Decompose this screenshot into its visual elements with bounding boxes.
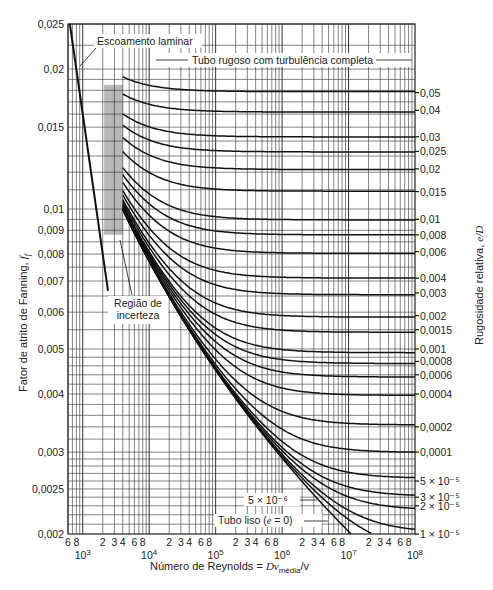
y-tick-label: 0,025	[38, 18, 64, 30]
x-decade-label: 108	[407, 548, 424, 561]
roughness-label: 0,01	[420, 213, 441, 225]
x-minor-tick-label: 2	[100, 536, 106, 548]
roughness-label: 0,0008	[420, 355, 452, 367]
roughness-label: 0,006	[420, 246, 446, 258]
x-minor-tick-label: 8	[140, 536, 146, 548]
x-minor-tick-label: 8	[73, 536, 79, 548]
x-minor-tick-label: 4	[253, 536, 259, 548]
roughness-labels: 0,050,040,030,0250,020,0150,010,0080,006…	[415, 87, 460, 540]
x-minor-tick-label: 3	[311, 536, 317, 548]
y-tick-label: 0,004	[38, 388, 64, 400]
roughness-label: 0,0004	[420, 388, 452, 400]
y-tick-label: 0,005	[38, 343, 64, 355]
uncertainty-annotation: incerteza	[117, 309, 160, 321]
roughness-label: 0,001	[420, 343, 446, 355]
rough-pipe-annotation: Tubo rugoso com turbulência completa	[192, 54, 373, 66]
roughness-label: 0,008	[420, 229, 446, 241]
y-tick-label: 0,007	[38, 275, 64, 287]
x-axis-title-tail: /v	[301, 560, 310, 572]
roughness-label: 0,03	[420, 131, 441, 143]
x-minor-tick-label: 4	[319, 536, 325, 548]
x-minor-tick-label: 6	[198, 536, 204, 548]
roughness-label: 0,015	[420, 186, 446, 198]
roughness-label: 0,0001	[420, 446, 452, 458]
roughness-label: 0,0002	[420, 421, 452, 433]
y-tick-label: 0,003	[38, 446, 64, 458]
y-tick-label: 0,0025	[32, 483, 64, 495]
x-minor-tick-label: 4	[386, 536, 392, 548]
roughness-label: 0,0006	[420, 369, 452, 381]
x-minor-tick-label: 8	[206, 536, 212, 548]
roughness-label: 0,002	[420, 310, 446, 322]
x-minor-tick-label: 6	[264, 536, 270, 548]
y-tick-label: 0,01	[44, 203, 65, 215]
right-axis-title-main: Rugosidade relativa,	[473, 242, 485, 345]
y-tick-label: 0,009	[38, 224, 64, 236]
roughness-label: 0,004	[420, 272, 446, 284]
x-minor-tick-label: 2	[299, 536, 305, 548]
y-tick-label: 0,015	[38, 121, 64, 133]
x-minor-tick-label: 2	[166, 536, 172, 548]
y-tick-label: 0,006	[38, 306, 64, 318]
roughness-label: 2 × 10⁻⁵	[420, 500, 460, 512]
x-minor-tick-label: 4	[120, 536, 126, 548]
annotation-5e-6: 5 × 10⁻⁶	[248, 494, 288, 506]
y-tick-label: 0,008	[38, 248, 64, 260]
roughness-label: 0,025	[420, 145, 446, 157]
x-minor-tick-label: 3	[244, 536, 250, 548]
y-axis-title-main: Fator de atrito de Fanning,	[17, 259, 29, 392]
y-tick-label: 0,02	[44, 63, 65, 75]
x-minor-tick-label: 6	[132, 536, 138, 548]
x-minor-tick-label: 3	[178, 536, 184, 548]
moody-chart: 0,0250,020,0150,010,0090,0080,0070,0060,…	[0, 0, 493, 590]
laminar-annotation: Escoamento laminar	[97, 35, 193, 47]
x-axis-title-main: Número de Reynolds =	[150, 560, 266, 572]
x-minor-tick-label: 8	[273, 536, 279, 548]
x-minor-tick-label: 6	[331, 536, 337, 548]
x-axis-title-sub: média	[279, 566, 301, 575]
x-axis-ticks: 6823468234682346823468234681031041051061…	[65, 536, 424, 561]
roughness-label: 1 × 10⁻⁵	[420, 528, 460, 540]
x-decade-label: 103	[75, 548, 92, 561]
roughness-label: 0,02	[420, 163, 441, 175]
y-axis-title: Fator de atrito de Fanning, ff	[17, 252, 32, 392]
x-minor-tick-label: 2	[233, 536, 239, 548]
x-minor-tick-label: 8	[406, 536, 412, 548]
x-minor-tick-label: 3	[377, 536, 383, 548]
roughness-label: 0,0015	[420, 324, 452, 336]
uncertainty-region	[104, 85, 123, 235]
uncertainty-shade	[104, 85, 123, 235]
y-axis-title-sub: f	[23, 252, 32, 256]
x-minor-tick-label: 8	[339, 536, 345, 548]
roughness-label: 0,05	[420, 87, 441, 99]
right-axis-title: Rugosidade relativa, e/D	[473, 226, 485, 345]
uncertainty-annotation: Região de	[114, 297, 162, 309]
x-minor-tick-label: 4	[186, 536, 192, 548]
right-axis-title-var: e/D	[473, 226, 485, 242]
x-minor-tick-label: 6	[65, 536, 71, 548]
y-axis-ticks: 0,0250,020,0150,010,0090,0080,0070,0060,…	[32, 18, 64, 540]
x-axis-title-var: Dv	[265, 560, 279, 572]
roughness-label: 5 × 10⁻⁵	[420, 475, 460, 487]
x-minor-tick-label: 2	[366, 536, 372, 548]
roughness-label: 0,003	[420, 287, 446, 299]
x-minor-tick-label: 6	[397, 536, 403, 548]
y-tick-label: 0,002	[38, 528, 64, 540]
x-minor-tick-label: 3	[112, 536, 118, 548]
smooth-pipe-annotation: Tubo liso (e = 0)	[218, 514, 293, 526]
roughness-label: 0,04	[420, 104, 441, 116]
x-decade-label: 107	[340, 548, 357, 561]
x-axis-title: Número de Reynolds = Dvmédia/v	[150, 560, 310, 575]
